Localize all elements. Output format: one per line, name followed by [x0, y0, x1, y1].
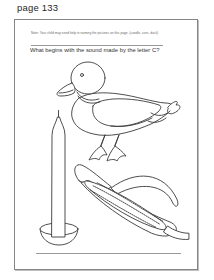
page-number-label: page 133 [17, 2, 58, 13]
parent-note-text: Note: Your child may need help in naming… [31, 31, 158, 35]
duck-beak [57, 83, 75, 96]
question-text: What begins with the sound made by the l… [30, 47, 159, 54]
scanned-worksheet-page: page 133 Note: Your child may need help … [0, 0, 214, 280]
duck-foot-left [89, 135, 107, 160]
note-divider-line [31, 45, 163, 46]
answer-line [36, 253, 181, 254]
candle-body [52, 117, 65, 237]
worksheet-frame: Note: Your child may need help in naming… [14, 19, 198, 270]
duck-eye [81, 74, 84, 77]
duck-head [71, 62, 105, 94]
corn-illustration [69, 158, 195, 250]
